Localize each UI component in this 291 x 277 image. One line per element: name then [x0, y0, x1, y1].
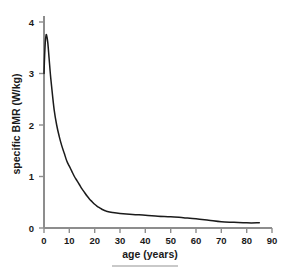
y-tick-label-2: 2: [29, 120, 34, 131]
y-tick-label-4: 4: [29, 17, 35, 28]
y-tick-label-1: 1: [29, 171, 35, 182]
chart-figure: 0 1 2 3 4 0 10 20 30 40 50 60 70 80 90 a…: [0, 0, 291, 277]
x-tick-label-90: 90: [267, 235, 278, 246]
x-tick-label-10: 10: [64, 235, 75, 246]
bmr-vs-age-line-chart: 0 1 2 3 4 0 10 20 30 40 50 60 70 80 90 a…: [0, 0, 291, 277]
x-tick-label-20: 20: [89, 235, 100, 246]
y-tick-label-0: 0: [29, 223, 34, 234]
x-axis-title: age (years): [122, 248, 177, 260]
bmr-curve: [44, 35, 259, 223]
x-tick-label-40: 40: [140, 235, 151, 246]
x-tick-label-60: 60: [191, 235, 202, 246]
x-tick-label-0: 0: [41, 235, 46, 246]
x-tick-label-80: 80: [241, 235, 252, 246]
x-tick-label-70: 70: [216, 235, 227, 246]
y-axis-title: specific BMR (W/kg): [10, 74, 22, 175]
x-tick-label-30: 30: [115, 235, 126, 246]
y-tick-label-3: 3: [29, 68, 34, 79]
x-tick-label-50: 50: [165, 235, 176, 246]
